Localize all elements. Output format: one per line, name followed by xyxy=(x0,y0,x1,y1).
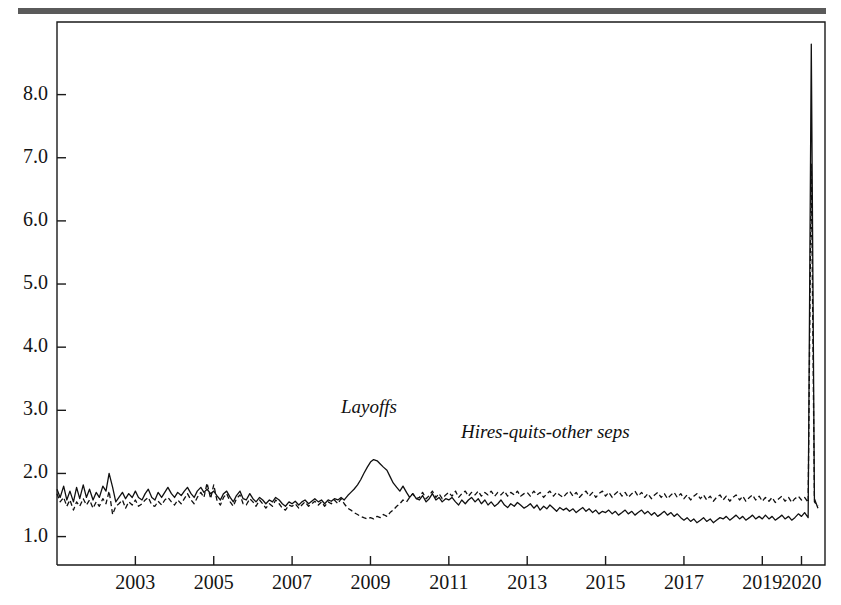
x-tick-label: 2003 xyxy=(115,571,155,594)
x-tick-label: 2009 xyxy=(350,571,390,594)
data-series-group xyxy=(57,44,818,523)
x-tick-label: 2017 xyxy=(664,571,704,594)
x-tick-label: 2013 xyxy=(507,571,547,594)
figure-container: 1.02.03.04.05.06.07.08.0 200320052007200… xyxy=(0,0,841,605)
y-tick-label: 3.0 xyxy=(2,397,48,420)
y-tick-label: 5.0 xyxy=(2,271,48,294)
y-tick-label: 8.0 xyxy=(2,82,48,105)
series-line-1 xyxy=(57,44,818,523)
x-tick-label: 2007 xyxy=(272,571,312,594)
plot-frame xyxy=(57,22,825,565)
x-tick-label: 2020 xyxy=(781,571,821,594)
x-tick-label: 2005 xyxy=(194,571,234,594)
chart-plot-area: 1.02.03.04.05.06.07.08.0 200320052007200… xyxy=(0,0,841,605)
series-label-hires-quits-other-seps: Hires-quits-other seps xyxy=(461,421,630,443)
axis-ticks xyxy=(57,95,801,565)
series-label-layoffs: Layoffs xyxy=(341,396,397,418)
series-line-2 xyxy=(57,164,818,519)
y-tick-label: 4.0 xyxy=(2,334,48,357)
x-tick-label: 2015 xyxy=(586,571,626,594)
line-chart-svg xyxy=(0,0,841,605)
y-tick-label: 6.0 xyxy=(2,208,48,231)
y-tick-label: 7.0 xyxy=(2,145,48,168)
x-tick-label: 2019 xyxy=(742,571,782,594)
x-tick-label: 2011 xyxy=(429,571,468,594)
y-tick-label: 2.0 xyxy=(2,460,48,483)
y-tick-label: 1.0 xyxy=(2,524,48,547)
